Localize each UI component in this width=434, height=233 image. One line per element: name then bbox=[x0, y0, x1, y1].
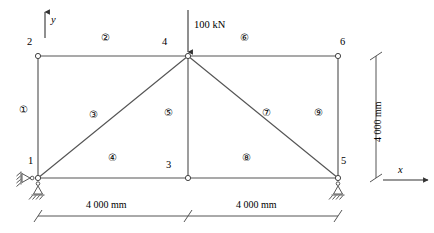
dimension-label-right-vertical: 4 000 mm bbox=[373, 101, 383, 142]
truss-drawing-canvas bbox=[0, 0, 434, 233]
element-label-8: ⑧ bbox=[242, 154, 251, 164]
x-axis-label: x bbox=[398, 165, 403, 176]
node-label-5: 5 bbox=[341, 156, 346, 167]
element-label-1: ① bbox=[19, 106, 28, 116]
element-label-9: ⑨ bbox=[314, 109, 323, 119]
node-label-2: 2 bbox=[27, 37, 32, 48]
y-axis-label: y bbox=[51, 15, 56, 26]
bottom-dimension-line bbox=[34, 210, 342, 222]
node-5 bbox=[335, 175, 340, 180]
node-6 bbox=[335, 53, 340, 58]
node-3 bbox=[185, 175, 190, 180]
node-2 bbox=[35, 53, 40, 58]
support-node5-vertical bbox=[329, 182, 345, 200]
node-label-1: 1 bbox=[28, 156, 33, 167]
support-node1-horizontal bbox=[17, 172, 35, 187]
node-label-6: 6 bbox=[340, 37, 345, 48]
element-label-6: ⑥ bbox=[240, 34, 249, 44]
load-label: 100 kN bbox=[194, 20, 225, 31]
node-label-4: 4 bbox=[162, 37, 167, 48]
element-label-3: ③ bbox=[89, 111, 98, 121]
element-label-5: ⑤ bbox=[164, 109, 173, 119]
element-label-2: ② bbox=[101, 34, 110, 44]
element-label-4: ④ bbox=[108, 154, 117, 164]
support-node1-vertical bbox=[29, 182, 45, 200]
dimension-label-bottom-left: 4 000 mm bbox=[86, 200, 127, 210]
node-4 bbox=[185, 53, 190, 58]
node-label-3: 3 bbox=[166, 160, 171, 171]
node-1 bbox=[35, 175, 40, 180]
dimension-label-bottom-right: 4 000 mm bbox=[236, 200, 277, 210]
truss-members bbox=[38, 56, 338, 178]
truss-diagram-figure: 1 2 3 4 5 6 ① ② ③ ④ ⑤ ⑥ ⑦ ⑧ ⑨ 100 kN y x… bbox=[0, 0, 434, 233]
element-label-7: ⑦ bbox=[262, 109, 271, 119]
